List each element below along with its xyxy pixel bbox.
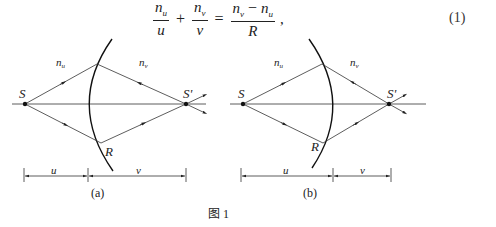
dimension-lines [24, 168, 186, 182]
label-r: R [104, 144, 113, 159]
arrow-icon [352, 82, 356, 84]
arrow-icon [280, 83, 284, 85]
figure-1: S S' R nu nv u v (a) [0, 0, 496, 227]
label-n-v: nv [139, 56, 149, 70]
image-point [387, 102, 391, 106]
label-s-prime: S' [183, 86, 193, 101]
dimension-lines [241, 168, 391, 182]
arrow-icon [353, 123, 357, 125]
label-s: S [238, 86, 245, 101]
panel-a: S S' R nu nv u v (a) [12, 39, 206, 200]
arrow-icon [389, 104, 405, 113]
arrow-icon [281, 123, 285, 125]
arrow-icon [139, 83, 143, 85]
panel-label-b: (b) [303, 186, 317, 200]
source-point [241, 102, 245, 106]
panel-b: S S' R nu nv u v (b) [230, 39, 426, 200]
label-v: v [136, 164, 141, 176]
arrow-icon [186, 104, 205, 113]
label-s-prime: S' [387, 86, 397, 101]
label-v: v [360, 164, 365, 176]
source-point [23, 102, 27, 106]
arrow-icon [60, 82, 64, 84]
label-s: S [19, 86, 26, 101]
figure-caption: 图 1 [208, 207, 229, 221]
label-u: u [51, 164, 57, 176]
arrow-icon [62, 123, 66, 125]
label-n-v: nv [350, 56, 360, 70]
label-r: R [310, 139, 319, 154]
label-n-u: nu [56, 56, 66, 70]
label-u: u [283, 164, 289, 176]
image-point [184, 102, 188, 106]
label-n-u: nu [274, 56, 284, 70]
arrow-icon [140, 123, 144, 125]
panel-label-a: (a) [91, 186, 104, 200]
